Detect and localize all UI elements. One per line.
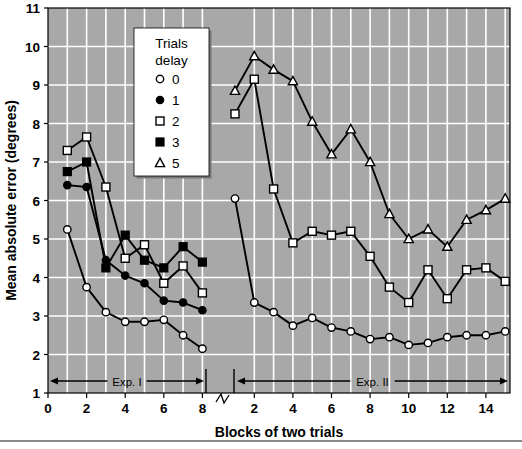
y-axis-group: 1234567891011 <box>25 1 48 401</box>
open-square-marker-icon <box>121 254 129 262</box>
open-square-marker-icon <box>347 227 355 235</box>
filled-square-marker-icon <box>83 158 91 166</box>
y-axis-tick-label: 3 <box>32 309 40 324</box>
open-circle-marker-icon <box>141 318 148 325</box>
filled-circle-marker-icon <box>141 280 148 287</box>
range-label: Exp. I <box>112 376 141 388</box>
open-circle-marker-icon <box>328 324 335 331</box>
filled-circle-marker-icon <box>156 96 163 103</box>
open-square-marker-icon <box>289 239 297 247</box>
x-axis-tick-label: 0 <box>44 401 52 416</box>
x-axis-tick-label: 8 <box>199 401 207 416</box>
legend-title-line1: Trials <box>155 36 188 51</box>
open-circle-marker-icon <box>482 332 489 339</box>
open-square-marker-icon <box>328 231 336 239</box>
y-axis-title: Mean absolute error (degrees) <box>3 100 19 301</box>
open-square-marker-icon <box>424 266 432 274</box>
x-axis-tick-label: 2 <box>251 401 259 416</box>
x-axis-tick-label: 6 <box>328 401 336 416</box>
filled-square-marker-icon <box>63 168 71 176</box>
open-circle-marker-icon <box>156 75 163 82</box>
filled-square-marker-icon <box>102 264 110 272</box>
legend-item-label: 0 <box>172 72 180 87</box>
y-axis-tick-label: 1 <box>32 386 40 401</box>
open-square-marker-icon <box>482 264 490 272</box>
open-square-marker-icon <box>443 295 451 303</box>
legend-item-label: 1 <box>172 93 180 108</box>
filled-square-marker-icon <box>121 231 129 239</box>
filled-square-marker-icon <box>141 256 149 264</box>
open-circle-marker-icon <box>309 314 316 321</box>
x-axis-tick-label: 10 <box>401 401 416 416</box>
legend-item-label: 5 <box>172 156 180 171</box>
footer-divider <box>0 440 522 442</box>
open-square-marker-icon <box>501 277 509 285</box>
legend[interactable]: Trialsdelay01235 <box>134 28 212 179</box>
range-label: Exp. II <box>356 376 389 388</box>
open-circle-marker-icon <box>463 332 470 339</box>
open-square-marker-icon <box>405 299 413 307</box>
open-circle-marker-icon <box>444 333 451 340</box>
x-axis-group: 024682468101214 <box>44 393 494 416</box>
filled-circle-marker-icon <box>179 299 186 306</box>
open-circle-marker-icon <box>251 299 258 306</box>
open-square-marker-icon <box>179 262 187 270</box>
legend-title-line2: delay <box>155 53 188 68</box>
open-square-marker-icon <box>156 117 164 125</box>
y-axis-tick-label: 8 <box>32 117 40 132</box>
x-axis-tick-label: 14 <box>478 401 494 416</box>
open-circle-marker-icon <box>289 322 296 329</box>
filled-circle-marker-icon <box>160 297 167 304</box>
filled-circle-marker-icon <box>83 183 90 190</box>
open-circle-marker-icon <box>160 316 167 323</box>
x-axis-title: Blocks of two trials <box>215 424 344 440</box>
y-axis-tick-label: 7 <box>32 155 40 170</box>
filled-circle-marker-icon <box>199 307 206 314</box>
open-square-marker-icon <box>366 252 374 260</box>
filled-circle-marker-icon <box>122 272 129 279</box>
filled-square-marker-icon <box>156 138 164 146</box>
open-square-marker-icon <box>83 133 91 141</box>
open-square-marker-icon <box>63 146 71 154</box>
open-circle-marker-icon <box>424 339 431 346</box>
y-axis-tick-label: 2 <box>32 348 40 363</box>
x-axis-break-icon <box>216 394 229 403</box>
legend-item-label: 3 <box>172 135 180 150</box>
open-circle-marker-icon <box>83 283 90 290</box>
open-circle-marker-icon <box>270 308 277 315</box>
open-circle-marker-icon <box>199 345 206 352</box>
open-square-marker-icon <box>231 110 239 118</box>
open-square-marker-icon <box>308 227 316 235</box>
open-circle-marker-icon <box>122 318 129 325</box>
x-axis-tick-label: 8 <box>366 401 374 416</box>
y-axis-tick-label: 4 <box>32 271 40 286</box>
filled-square-marker-icon <box>179 243 187 251</box>
open-square-marker-icon <box>385 283 393 291</box>
y-axis-tick-label: 11 <box>26 1 41 16</box>
filled-square-marker-icon <box>198 258 206 266</box>
open-circle-marker-icon <box>502 328 509 335</box>
chart-figure-root: 1234567891011Mean absolute error (degree… <box>0 0 522 449</box>
open-circle-marker-icon <box>64 226 71 233</box>
open-square-marker-icon <box>198 289 206 297</box>
open-square-marker-icon <box>141 241 149 249</box>
open-circle-marker-icon <box>102 308 109 315</box>
y-axis-tick-label: 10 <box>25 40 40 55</box>
open-square-marker-icon <box>102 183 110 191</box>
x-axis-tick-label: 2 <box>83 401 91 416</box>
x-axis-tick-label: 4 <box>289 401 297 416</box>
x-axis-tick-label: 4 <box>121 401 129 416</box>
open-circle-marker-icon <box>386 333 393 340</box>
open-square-marker-icon <box>250 75 258 83</box>
filled-square-marker-icon <box>160 264 168 272</box>
y-axis-tick-label: 6 <box>32 194 40 209</box>
x-axis-tick-label: 6 <box>160 401 168 416</box>
open-circle-marker-icon <box>231 195 238 202</box>
open-square-marker-icon <box>270 185 278 193</box>
open-circle-marker-icon <box>179 332 186 339</box>
y-axis-tick-label: 5 <box>32 232 40 247</box>
open-square-marker-icon <box>463 266 471 274</box>
open-circle-marker-icon <box>366 335 373 342</box>
filled-circle-marker-icon <box>64 181 71 188</box>
x-axis-tick-label: 12 <box>440 401 455 416</box>
